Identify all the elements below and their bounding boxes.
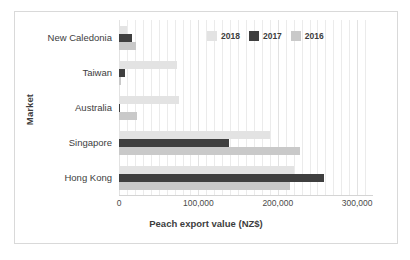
bar [119, 104, 120, 112]
chart-figure: Market New CaledoniaTaiwanAustraliaSinga… [14, 11, 398, 244]
x-axis-line [119, 195, 373, 196]
y-axis-tick-labels: New CaledoniaTaiwanAustraliaSingaporeHon… [15, 12, 112, 243]
y-axis-tick-label: Australia [14, 102, 112, 113]
bar [119, 61, 177, 69]
y-axis-tick-label: Taiwan [14, 67, 112, 78]
bar-series-group [119, 20, 373, 195]
legend-label: 2016 [305, 31, 324, 41]
x-axis-title: Peach export value (NZ$) [15, 218, 397, 229]
bar [119, 174, 324, 182]
x-axis-tick-labels: 0100,000200,000300,000 [119, 198, 373, 212]
plot-area [119, 20, 373, 195]
legend-item[interactable]: 2016 [291, 31, 324, 41]
y-axis-tick-label: New Caledonia [14, 32, 112, 43]
legend-item[interactable]: 2017 [249, 31, 282, 41]
x-axis-tick-label: 0 [117, 198, 122, 208]
legend-item[interactable]: 2018 [207, 31, 240, 41]
x-axis-tick-label: 100,000 [183, 198, 214, 208]
legend-swatch-icon [249, 31, 259, 41]
x-axis-tick-label: 200,000 [262, 198, 293, 208]
y-axis-tick-label: Singapore [14, 137, 112, 148]
bar [119, 182, 290, 190]
bar [119, 42, 136, 50]
bar [119, 166, 294, 174]
chart-legend: 201820172016 [207, 31, 324, 41]
bar [119, 34, 132, 42]
legend-swatch-icon [207, 31, 217, 41]
legend-label: 2018 [221, 31, 240, 41]
bar [119, 69, 125, 77]
legend-swatch-icon [291, 31, 301, 41]
bar [119, 147, 300, 155]
x-axis-tick-label: 300,000 [342, 198, 373, 208]
bar [119, 96, 179, 104]
bar [119, 112, 137, 120]
y-axis-tick-label: Hong Kong [14, 172, 112, 183]
legend-label: 2017 [263, 31, 282, 41]
bar [119, 139, 229, 147]
bar [119, 77, 121, 85]
bar [119, 26, 127, 34]
bar [119, 131, 270, 139]
